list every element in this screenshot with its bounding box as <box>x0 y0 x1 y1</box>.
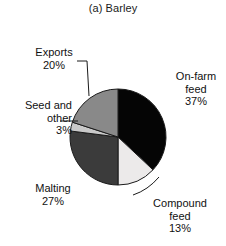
slice-label-exports-value: 20% <box>22 59 86 72</box>
slice-label-malting-value: 27% <box>22 195 84 208</box>
slice-label-compound-value: 13% <box>137 222 223 235</box>
slice-label-onfarm-line2: feed <box>167 83 225 96</box>
slice-label-seed-and-other: Seed and other 3% <box>0 99 72 137</box>
slice-label-compound-line1: Compound <box>137 197 223 210</box>
chart-figure: (a) Barley Exports 20% Seed and other 3%… <box>0 0 226 246</box>
slice-label-malting: Malting 27% <box>22 182 84 207</box>
slice-label-on-farm-feed: On-farm feed 37% <box>167 70 225 108</box>
pie-slices-group <box>70 89 166 185</box>
slice-label-seed-line2: other <box>0 112 72 125</box>
slice-label-exports: Exports 20% <box>22 46 86 71</box>
pie-slice-malting <box>70 131 118 185</box>
slice-label-compound-feed: Compound feed 13% <box>137 197 223 235</box>
slice-label-malting-text: Malting <box>22 182 84 195</box>
slice-label-exports-text: Exports <box>22 46 86 59</box>
slice-label-seed-value: 3% <box>0 124 72 137</box>
slice-label-seed-line1: Seed and <box>0 99 72 112</box>
slice-label-onfarm-value: 37% <box>167 95 225 108</box>
slice-label-compound-line2: feed <box>137 210 223 223</box>
slice-label-onfarm-line1: On-farm <box>167 70 225 83</box>
